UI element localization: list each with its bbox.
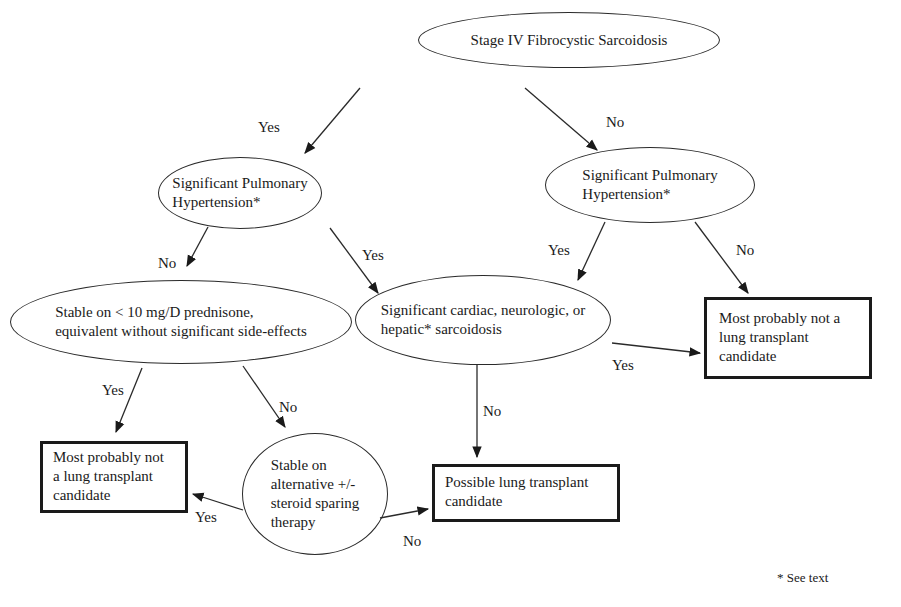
node-label: alternative +/-: [271, 475, 360, 494]
edge-label-yes: Yes: [195, 508, 217, 526]
node-label: therapy: [271, 513, 360, 532]
node-label: Possible lung transplant: [445, 473, 607, 492]
edge-label-no: No: [483, 402, 501, 420]
edge-ph-left-prednisone: [187, 227, 208, 266]
edge-label-yes: Yes: [612, 356, 634, 374]
node-stage-iv-fibrocystic-sarcoidosis: Stage IV Fibrocystic Sarcoidosis: [418, 12, 720, 68]
edge-label-no: No: [158, 254, 176, 272]
node-stable-prednisone: Stable on < 10 mg/D prednisone, equivale…: [10, 280, 352, 364]
edge-ph-right-cardiac: [578, 222, 605, 280]
node-label: candidate: [445, 492, 607, 511]
node-label: Stable on: [271, 456, 360, 475]
node-label: hepatic* sarcoidosis: [381, 320, 586, 339]
edge-alternative-possible: [380, 509, 428, 518]
edge-prednisone-alternative: [243, 366, 285, 427]
edge-cardiac-not-candidate: [612, 343, 700, 353]
node-label: candidate: [53, 486, 175, 505]
node-label: Stable on < 10 mg/D prednisone,: [55, 303, 307, 322]
node-label: Significant Pulmonary: [172, 174, 307, 193]
node-pulmonary-hypertension-right: Significant Pulmonary Hypertension*: [545, 147, 755, 223]
edge-label-no: No: [736, 241, 754, 259]
node-not-candidate-left: Most probably not a lung transplant cand…: [40, 441, 188, 513]
node-label: Significant Pulmonary: [582, 166, 717, 185]
edge-label-yes: Yes: [102, 381, 124, 399]
node-label: Most probably not: [53, 448, 175, 467]
node-label: steroid sparing: [271, 494, 360, 513]
node-pulmonary-hypertension-left: Significant Pulmonary Hypertension*: [158, 157, 322, 229]
node-label: candidate: [719, 347, 859, 366]
node-not-candidate-right: Most probably not a lung transplant cand…: [704, 297, 872, 379]
edge-label-yes: Yes: [258, 118, 280, 136]
node-label: Significant cardiac, neurologic, or: [381, 301, 586, 320]
node-label: equivalent without significant side-effe…: [55, 322, 307, 341]
node-cardiac-neurologic-hepatic: Significant cardiac, neurologic, or hepa…: [355, 275, 611, 365]
footnote: * See text: [777, 570, 828, 586]
node-label: Most probably not a: [719, 309, 859, 328]
node-label: lung transplant: [719, 328, 859, 347]
node-label: a lung transplant: [53, 467, 175, 486]
node-possible-candidate: Possible lung transplant candidate: [432, 464, 620, 522]
node-stable-alternative-therapy: Stable on alternative +/- steroid sparin…: [242, 433, 388, 555]
edge-root-ph-left: [305, 88, 360, 153]
edge-label-no: No: [279, 398, 297, 416]
edge-root-ph-right: [525, 88, 597, 150]
edge-label-no: No: [606, 113, 624, 131]
edge-label-yes: Yes: [362, 246, 384, 264]
edge-label-no: No: [403, 532, 421, 550]
edge-prednisone-not-candidate: [116, 368, 142, 432]
node-label: Hypertension*: [582, 185, 717, 204]
edge-label-yes: Yes: [548, 241, 570, 259]
node-label: Hypertension*: [172, 193, 307, 212]
node-label: Stage IV Fibrocystic Sarcoidosis: [471, 32, 668, 48]
